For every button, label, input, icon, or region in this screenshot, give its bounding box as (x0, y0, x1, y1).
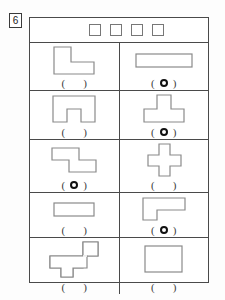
header-checkbox-2[interactable] (110, 24, 122, 36)
paren-right: ) (83, 225, 87, 236)
paren-right: ) (83, 127, 87, 138)
paren-left: ( (151, 282, 155, 293)
paren-right: ) (173, 180, 177, 191)
paren-left: ( (62, 78, 66, 89)
reversed-l-shape-icon (120, 193, 209, 223)
header-checkbox-1[interactable] (89, 24, 101, 36)
small-wide-rectangle-icon (30, 193, 119, 223)
shape-cell-5-left[interactable]: ( ) (30, 238, 120, 294)
plus-cross-shape-icon (120, 140, 209, 178)
paren-left: ( (151, 225, 155, 236)
paren-right: ) (173, 282, 177, 293)
paren-right: ) (83, 78, 87, 89)
answer-slot[interactable]: ( ) (30, 280, 119, 294)
shapes-table: ( ) ( ) (29, 17, 209, 283)
l-shape-icon (30, 43, 119, 76)
shape-cell-4-right[interactable]: ( ) (120, 193, 209, 237)
paren-right: ) (83, 180, 87, 191)
paren-left: ( (151, 180, 155, 191)
tall-rectangle-icon (120, 238, 209, 280)
answer-slot[interactable]: ( ) (30, 76, 119, 90)
table-row: ( ) ( ) (30, 140, 208, 193)
answer-slot[interactable]: ( ) (120, 178, 209, 192)
header-checkbox-3[interactable] (131, 24, 143, 36)
paren-right: ) (173, 225, 177, 236)
table-row: ( ) ( ) (30, 91, 208, 140)
t-shape-icon (120, 91, 209, 125)
filled-ring-marker (160, 128, 168, 136)
question-number-badge: 6 (9, 13, 22, 28)
answer-slot[interactable]: ( ) (30, 125, 119, 139)
shape-cell-3-left[interactable]: ( ) (30, 140, 120, 192)
answer-slot[interactable]: ( ) (30, 178, 119, 192)
shape-cell-2-left[interactable]: ( ) (30, 91, 120, 139)
answer-slot[interactable]: ( ) (120, 223, 209, 237)
complex-polyomino-shape-icon (30, 238, 119, 280)
paren-left: ( (62, 180, 66, 191)
paren-left: ( (62, 282, 66, 293)
worksheet-page: 6 ( ) (0, 0, 225, 300)
paren-right: ) (173, 127, 177, 138)
answer-slot[interactable]: ( ) (120, 125, 209, 139)
filled-ring-marker (160, 226, 168, 234)
shape-cell-1-left[interactable]: ( ) (30, 43, 120, 90)
table-row: ( ) ( ) (30, 238, 208, 294)
filled-ring-marker (70, 181, 78, 189)
header-checkbox-4[interactable] (152, 24, 164, 36)
s-zigzag-shape-icon (30, 140, 119, 178)
table-row: ( ) ( ) (30, 193, 208, 238)
shape-cell-2-right[interactable]: ( ) (120, 91, 209, 139)
table-row: ( ) ( ) (30, 43, 208, 91)
shape-cell-3-right[interactable]: ( ) (120, 140, 209, 192)
answer-slot[interactable]: ( ) (30, 223, 119, 237)
paren-left: ( (62, 127, 66, 138)
u-arch-shape-icon (30, 91, 119, 125)
paren-left: ( (151, 127, 155, 138)
filled-ring-marker (160, 79, 168, 87)
shape-cell-4-left[interactable]: ( ) (30, 193, 120, 237)
paren-right: ) (83, 282, 87, 293)
paren-left: ( (62, 225, 66, 236)
wide-rectangle-icon (120, 43, 209, 76)
shape-rows-container: ( ) ( ) (30, 43, 208, 282)
paren-left: ( (151, 78, 155, 89)
shape-cell-5-right[interactable]: ( ) (120, 238, 209, 294)
paren-right: ) (173, 78, 177, 89)
answer-slot[interactable]: ( ) (120, 280, 209, 294)
answer-slot[interactable]: ( ) (120, 76, 209, 90)
shape-cell-1-right[interactable]: ( ) (120, 43, 209, 90)
header-checkbox-row (30, 18, 208, 43)
